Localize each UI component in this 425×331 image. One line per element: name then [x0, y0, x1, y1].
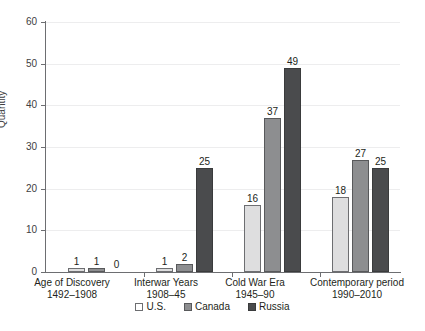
bar-value-label: 25: [375, 157, 386, 167]
legend-label-us: U.S.: [146, 302, 165, 312]
y-tick-mark-20: [41, 189, 45, 190]
legend-label-canada: Canada: [195, 302, 230, 312]
legend-item-canada: Canada: [184, 302, 230, 312]
bar-group-interwar-years: 1 2 25: [156, 22, 224, 272]
y-tick-label-20: 20: [7, 184, 37, 194]
bar-value-label: 27: [355, 149, 366, 159]
x-axis-line: [45, 272, 401, 273]
x-category-name: Contemporary period: [294, 277, 420, 289]
legend-swatch-icon-russia: [248, 303, 256, 311]
y-tick-label-40: 40: [7, 100, 37, 110]
bar-value-label: 18: [335, 186, 346, 196]
bar-canada-contemporary-period: 27: [352, 160, 369, 273]
y-axis-line: [45, 21, 46, 273]
bar-canada-cold-war-era: 37: [264, 118, 281, 272]
bar-group-contemporary-period: 18 27 25: [332, 22, 400, 272]
y-tick-mark-60: [41, 22, 45, 23]
legend-swatch-icon-us: [135, 303, 143, 311]
bar-value-label: 1: [74, 257, 80, 267]
x-category-label-cold-war-era: Cold War Era 1945–90: [203, 277, 307, 301]
bar-value-label: 49: [287, 57, 298, 67]
bar-us-cold-war-era: 16: [244, 205, 261, 272]
bar-value-label: 1: [94, 257, 100, 267]
y-tick-label-10: 10: [7, 225, 37, 235]
y-tick-label-50: 50: [7, 59, 37, 69]
bar-value-label: 1: [162, 257, 168, 267]
x-category-years: 1945–90: [203, 289, 307, 301]
bar-value-label: 37: [267, 107, 278, 117]
x-category-label-contemporary-period: Contemporary period 1990–2010: [294, 277, 420, 301]
bar-value-label: 16: [247, 194, 258, 204]
bar-group-age-of-discovery: 1 1 0: [68, 22, 136, 272]
clipped-caption: [14, 322, 414, 331]
y-tick-mark-50: [41, 64, 45, 65]
bar-value-label: 2: [182, 253, 188, 263]
legend-label-russia: Russia: [259, 302, 290, 312]
bar-us-contemporary-period: 18: [332, 197, 349, 272]
bar-canada-interwar-years: 2: [176, 264, 193, 272]
bar-russia-contemporary-period: 25: [372, 168, 389, 272]
legend-item-us: U.S.: [135, 302, 165, 312]
plot-area: 1 1 0 1 2 25 16: [46, 22, 400, 272]
chart-legend: U.S. Canada Russia: [0, 302, 425, 312]
x-category-years: 1990–2010: [294, 289, 420, 301]
bar-chart: 1 1 0 1 2 25 16: [0, 0, 425, 331]
bar-value-label: 0: [114, 260, 120, 270]
legend-item-russia: Russia: [248, 302, 290, 312]
bar-russia-interwar-years: 25: [196, 168, 213, 272]
bar-group-cold-war-era: 16 37 49: [244, 22, 312, 272]
y-axis-title: Quantity: [0, 91, 7, 128]
y-tick-label-60: 60: [7, 17, 37, 27]
y-tick-label-30: 30: [7, 142, 37, 152]
y-tick-mark-10: [41, 230, 45, 231]
bar-russia-cold-war-era: 49: [284, 68, 301, 272]
y-tick-label-0: 0: [7, 267, 37, 277]
y-tick-mark-40: [41, 105, 45, 106]
y-tick-mark-30: [41, 147, 45, 148]
legend-swatch-icon-canada: [184, 303, 192, 311]
bar-value-label: 25: [199, 157, 210, 167]
y-tick-mark-0: [41, 272, 45, 273]
x-category-name: Cold War Era: [203, 277, 307, 289]
